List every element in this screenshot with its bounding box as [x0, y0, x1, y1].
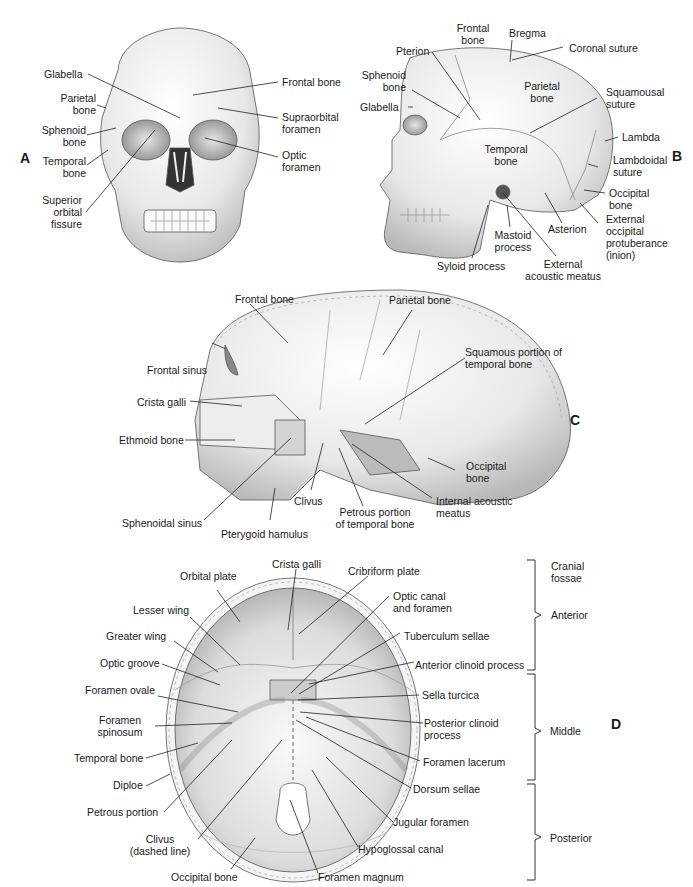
label-b-asterion: Asterion [548, 223, 587, 235]
label-d-optic-groove: Optic groove [100, 657, 160, 669]
label-b-coronal-suture: Coronal suture [569, 42, 638, 54]
label-b-lambda: Lambda [622, 131, 660, 143]
label-a-sphenoid-bone: Sphenoid bone [36, 124, 86, 148]
label-c-frontal-bone: Frontal bone [235, 293, 294, 305]
label-c-parietal-bone: Parietal bone [389, 294, 451, 306]
label-a-optic-foramen: Optic foramen [282, 149, 321, 173]
skull-anterior [101, 28, 260, 262]
label-d-clivus: Clivus (dashed line) [120, 833, 200, 857]
label-c-pterygoid-hamulus: Pterygoid hamulus [221, 528, 308, 540]
label-b-occipital-bone: Occipital bone [609, 187, 649, 211]
label-d-anterior-fossa: Anterior [551, 609, 588, 621]
label-d-temporal-bone: Temporal bone [74, 752, 143, 764]
label-d-foramen-lacerum: Foramen lacerum [423, 756, 505, 768]
label-d-foramen-ovale: Foramen ovale [85, 684, 155, 696]
label-d-diploe: Diploe [113, 779, 143, 791]
label-a-supraorbital-foramen: Supraorbital foramen [282, 111, 339, 135]
label-b-external-occipital-protuberance: External occipital protuberance (inion) [606, 213, 668, 261]
label-d-dorsum-sellae: Dorsum sellae [413, 783, 480, 795]
label-d-petrous-portion: Petrous portion [87, 806, 158, 818]
label-d-posterior-fossa: Posterior [550, 832, 592, 844]
label-b-frontal-bone: Frontal bone [448, 22, 498, 46]
label-d-crista-galli: Crista galli [272, 558, 321, 570]
label-d-sella-turcica: Sella turcica [422, 689, 479, 701]
label-b-sphenoid-bone: Sphenoid bone [356, 69, 406, 93]
label-b-temporal-bone: Temporal bone [478, 143, 534, 167]
panel-letter-b: B [672, 148, 682, 164]
panel-letter-d: D [611, 716, 621, 732]
label-d-jugular-foramen: Jugular foramen [393, 816, 469, 828]
label-a-frontal-bone: Frontal bone [282, 76, 341, 88]
label-c-occipital-bone: Occipital bone [466, 460, 506, 484]
label-b-external-acoustic-meatus: External acoustic meatus [518, 258, 608, 282]
label-c-sphenoidal-sinus: Sphenoidal sinus [122, 517, 202, 529]
panel-letter-c: C [570, 412, 580, 428]
label-b-lambdoidal-suture: Lambdoidal suture [613, 154, 667, 178]
label-d-posterior-clinoid: Posterior clinoid process [424, 717, 499, 741]
label-a-glabella: Glabella [44, 68, 83, 80]
label-c-frontal-sinus: Frontal sinus [147, 364, 207, 376]
label-d-cribriform-plate: Cribriform plate [348, 565, 420, 577]
label-a-temporal-bone: Temporal bone [36, 155, 86, 179]
label-b-pterion: Pterion [396, 45, 429, 57]
label-d-orbital-plate: Orbital plate [180, 570, 237, 582]
label-d-foramen-spinosum: Foramen spinosum [90, 714, 150, 738]
label-d-anterior-clinoid: Anterior clinoid process [415, 659, 524, 671]
label-d-optic-canal: Optic canal and foramen [393, 590, 452, 614]
label-b-squamousal-suture: Squamousal suture [606, 86, 664, 110]
label-c-ethmoid-bone: Ethmoid bone [119, 434, 184, 446]
label-c-clivus: Clivus [294, 495, 323, 507]
label-a-parietal-bone: Parietal bone [44, 92, 96, 116]
label-d-middle-fossa: Middle [550, 725, 581, 737]
label-b-glabella: Glabella [360, 101, 399, 113]
label-d-hypoglossal-canal: Hypoglossal canal [358, 843, 443, 855]
fossae-braces [527, 560, 541, 880]
skull-sagittal [195, 290, 571, 505]
panel-letter-a: A [20, 150, 30, 166]
label-b-syloid-process: Syloid process [437, 260, 505, 272]
label-c-internal-acoustic-meatus: Internal acoustic meatus [436, 495, 512, 519]
label-d-lesser-wing: Lesser wing [133, 604, 189, 616]
label-b-parietal-bone: Parietal bone [514, 80, 570, 104]
label-b-mastoid-process: Mastoid process [488, 229, 538, 253]
label-d-occipital-bone: Occipital bone [171, 871, 238, 883]
label-d-tuberculum-sellae: Tuberculum sellae [404, 630, 489, 642]
label-d-foramen-magnum: Foramen magnum [318, 871, 404, 883]
label-a-superior-orbital-fissure: Superior orbital fissure [36, 194, 82, 230]
label-d-greater-wing: Greater wing [106, 630, 166, 642]
label-d-cranial-fossae: Cranial fossae [551, 560, 584, 584]
label-c-crista-galli: Crista galli [137, 396, 186, 408]
label-c-petrous-portion: Petrous portion of temporal bone [330, 506, 420, 530]
cranial-floor [166, 578, 420, 882]
label-b-bregma: Bregma [509, 27, 546, 39]
label-c-squamous-portion: Squamous portion of temporal bone [465, 346, 562, 370]
